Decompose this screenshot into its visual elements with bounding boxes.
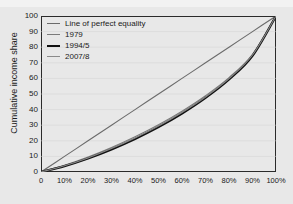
y-tick-label: 20 [2,137,38,145]
y-tick-label: 80 [2,43,38,51]
y-tick-label: 60 [2,74,38,82]
x-tick-label: 100% [262,177,290,185]
y-tick-label: 90 [2,28,38,36]
legend-item-label: Line of perfect equality [65,19,146,28]
y-tick-label: 70 [2,59,38,67]
y-tick-label: 0 [2,168,38,176]
chart-legend: Line of perfect equality19791994/52007/8 [47,18,165,62]
legend-swatch-icon [47,23,60,24]
legend-item: Line of perfect equality [47,18,165,29]
y-tick-label: 30 [2,121,38,129]
legend-item: 1994/5 [47,40,165,51]
clipped-header-strip [0,0,293,7]
y-tick-label: 50 [2,90,38,98]
legend-item-label: 1994/5 [65,41,89,50]
legend-item: 1979 [47,29,165,40]
y-tick-label: 10 [2,152,38,160]
y-axis-label: Cumulative income share [9,23,19,143]
y-tick-label: 100 [2,12,38,20]
legend-swatch-icon [47,34,60,35]
legend-swatch-icon [47,56,60,57]
legend-item-label: 1979 [65,30,83,39]
y-axis-ticks: 1009080706050403020100 [0,0,38,204]
y-tick-label: 40 [2,106,38,114]
legend-item: 2007/8 [47,51,165,62]
legend-swatch-icon [47,45,60,47]
legend-item-label: 2007/8 [65,52,89,61]
lorenz-curve-figure: 1009080706050403020100 Cumulative income… [0,0,293,204]
